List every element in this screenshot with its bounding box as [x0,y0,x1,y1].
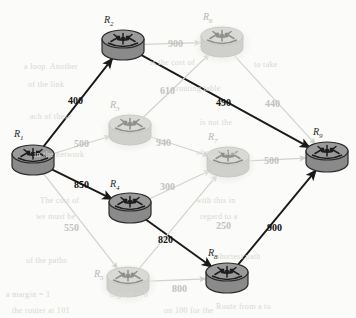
router-node-r8[interactable] [206,263,248,293]
node-label-r9: R9 [313,126,323,140]
edge-r8-r9 [238,170,317,265]
edge-weight-r1-r4: 850 [74,179,89,190]
router-node-r5[interactable] [98,263,158,305]
edge-weight-r7-r9: 500 [264,155,279,166]
edge-weight-r1-r2: 400 [68,95,83,106]
edge-weight-r2-r6: 900 [168,38,183,49]
node-label-r1: R1 [14,128,24,142]
edge-weight-r6-r9: 440 [265,98,280,109]
router-node-r3[interactable] [100,111,160,153]
node-layer [12,23,348,305]
edge-r4-r7 [148,170,211,200]
edge-weight-r1-r5: 550 [64,222,79,233]
router-node-r6[interactable] [192,23,252,65]
edge-r4-r8 [145,219,212,268]
edge-weight-r3-r7: 940 [156,137,171,148]
node-label-r8: R8 [208,247,218,261]
edge-weight-r3-r6: 610 [160,85,175,96]
router-node-r7[interactable] [198,143,258,185]
edge-weight-r5-r8: 800 [172,283,187,294]
edge-weight-r8-r9: 900 [267,222,282,233]
node-label-r3: R3 [110,99,120,113]
node-label-r2: R2 [104,14,114,28]
edge-weight-r4-r7: 300 [160,181,175,192]
edge-weight-r5-r7: 250 [216,220,231,231]
node-label-r5: R5 [94,268,104,282]
router-node-r1[interactable] [12,145,54,175]
edge-weight-r1-r3: 500 [74,138,89,149]
edge-weight-r4-r8: 820 [158,234,173,245]
router-node-r4[interactable] [109,193,151,223]
node-label-r7: R7 [208,131,218,145]
router-node-r9[interactable] [306,142,348,172]
node-label-r6: R6 [203,11,213,25]
router-node-r2[interactable] [102,30,144,60]
edge-weight-r2-r9: 490 [216,97,231,108]
node-label-r4: R4 [110,178,120,192]
